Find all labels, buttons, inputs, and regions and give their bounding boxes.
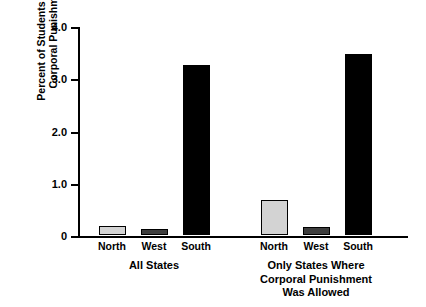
y-tick-label: 2.0 [52, 126, 67, 138]
group-label-line: Corporal Punishment [260, 273, 372, 287]
y-tick-mark [71, 79, 78, 81]
y-tick-mark [71, 132, 78, 134]
y-tick-label: 1.0 [52, 178, 67, 190]
y-tick-mark [71, 184, 78, 186]
y-axis-line [78, 27, 80, 238]
bar-north-group-1 [99, 226, 126, 235]
y-axis-label-line-1: Percent of Students Given [35, 0, 48, 101]
group-label-line: Was Allowed [260, 286, 372, 300]
y-tick-mark [71, 236, 78, 238]
category-label-west-group-2: West [304, 240, 329, 252]
category-label-south-group-2: South [343, 240, 373, 252]
y-axis-label-line-2: Corporal Punishment [47, 0, 60, 101]
bar-south-group-2 [345, 54, 372, 235]
y-tick-label: 0 [61, 230, 67, 242]
category-label-west-group-1: West [142, 240, 167, 252]
category-label-north-group-2: North [260, 240, 288, 252]
bar-west-group-2 [303, 227, 330, 235]
y-tick-label: 3.0 [52, 73, 67, 85]
y-tick-mark [71, 27, 78, 29]
bar-chart-figure: Percent of Students Given Corporal Punis… [0, 0, 426, 307]
group-label-line: Only States Where [260, 259, 372, 273]
y-tick-label: 4.0 [52, 21, 67, 33]
category-label-south-group-1: South [181, 240, 211, 252]
bar-west-group-1 [141, 229, 168, 235]
group-label-line: All States [129, 259, 179, 273]
x-axis-line [78, 236, 408, 238]
group-label-2: Only States WhereCorporal PunishmentWas … [260, 259, 372, 300]
bar-south-group-1 [183, 65, 210, 235]
plot-area: 01.02.03.04.0 NorthWestSouthNorthWestSou… [78, 27, 408, 237]
group-label-1: All States [129, 259, 179, 273]
category-label-north-group-1: North [98, 240, 126, 252]
bar-north-group-2 [261, 200, 288, 235]
